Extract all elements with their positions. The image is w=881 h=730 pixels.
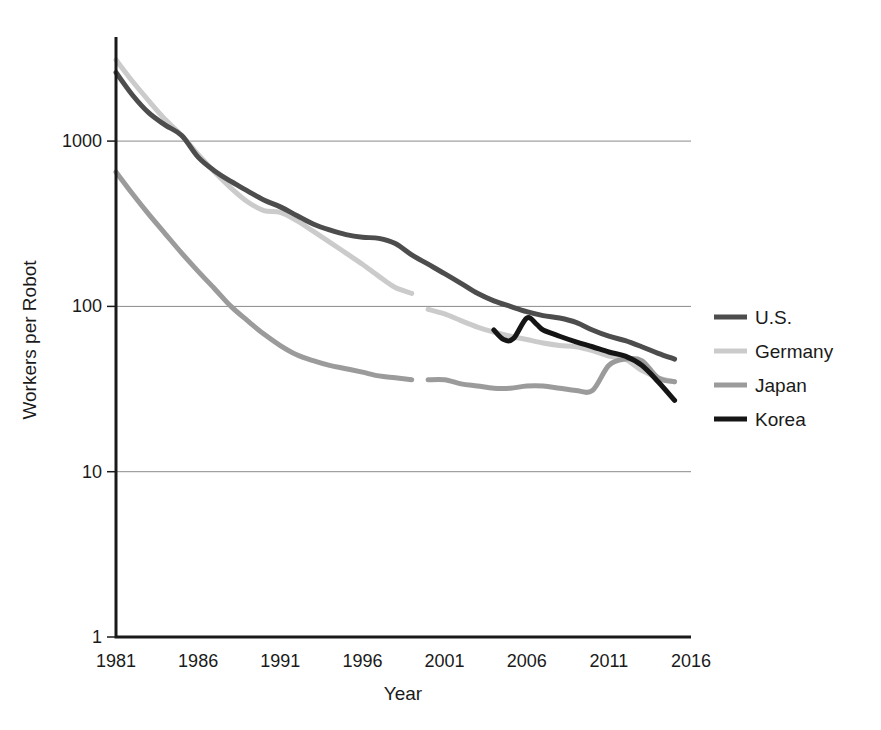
chart-background xyxy=(0,0,881,730)
x-axis-title: Year xyxy=(384,683,423,704)
y-axis-title: Workers per Robot xyxy=(19,260,40,420)
x-tick-label: 2001 xyxy=(425,651,465,671)
x-tick-label: 2016 xyxy=(671,651,711,671)
legend-label-japan: Japan xyxy=(755,375,807,396)
legend-label-germany: Germany xyxy=(755,341,834,362)
x-tick-label: 2011 xyxy=(589,651,628,671)
x-tick-label: 1986 xyxy=(178,651,218,671)
x-tick-label: 1981 xyxy=(96,651,136,671)
x-tick-label: 1996 xyxy=(342,651,382,671)
x-tick-label: 1991 xyxy=(260,651,300,671)
y-tick-label: 10 xyxy=(82,462,102,482)
legend-label-us: U.S. xyxy=(755,307,792,328)
y-tick-label: 1 xyxy=(92,627,102,647)
y-tick-label: 1000 xyxy=(62,131,102,151)
x-tick-label: 2006 xyxy=(507,651,547,671)
legend-label-korea: Korea xyxy=(755,409,806,430)
y-tick-label: 100 xyxy=(72,296,102,316)
workers-per-robot-chart: 1101001000 19811986199119962001200620112… xyxy=(0,0,881,730)
